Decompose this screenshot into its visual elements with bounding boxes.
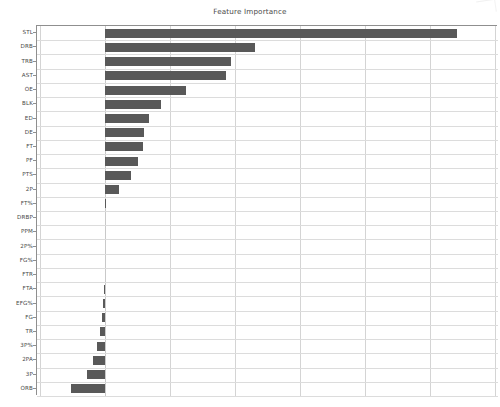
bar (93, 356, 105, 365)
y-gridline (37, 396, 498, 397)
bar (105, 142, 143, 151)
y-tick-label: PTS (0, 171, 33, 177)
bar (105, 100, 161, 109)
y-tick-label: FG% (0, 257, 33, 263)
y-gridline (37, 282, 498, 283)
y-tick-label: TRB (0, 58, 33, 64)
y-tick-label: 2P (0, 186, 33, 192)
y-gridline (37, 111, 498, 112)
y-gridline (37, 225, 498, 226)
y-gridline (37, 168, 498, 169)
y-gridline (37, 211, 498, 212)
y-gridline (37, 311, 498, 312)
bar (105, 57, 231, 66)
bar (105, 86, 186, 95)
y-gridline (37, 154, 498, 155)
y-tick-label: ED (0, 115, 33, 121)
y-gridline (37, 54, 498, 55)
y-tick-label: FT% (0, 200, 33, 206)
bar (100, 327, 105, 336)
y-tick-label: AST (0, 72, 33, 78)
y-gridline (37, 353, 498, 354)
y-gridline (37, 325, 498, 326)
y-tick-label: FTR (0, 271, 33, 277)
y-tick-label: 3P% (0, 342, 33, 348)
y-tick-label: PF (0, 157, 33, 163)
chart-title: Feature Importance (0, 7, 500, 16)
bar (105, 171, 131, 180)
y-gridline (37, 183, 498, 184)
y-gridline (37, 339, 498, 340)
bar (104, 285, 105, 294)
y-gridline (37, 197, 498, 198)
bar (102, 313, 105, 322)
y-gridline (37, 140, 498, 141)
bar (105, 199, 106, 208)
y-gridline (37, 69, 498, 70)
y-gridline (37, 268, 498, 269)
y-gridline (37, 126, 498, 127)
y-tick-label: FG (0, 314, 33, 320)
bar (87, 370, 105, 379)
y-tick-label: 3P (0, 371, 33, 377)
y-tick-label: TR (0, 328, 33, 334)
bar (97, 342, 105, 351)
y-gridline (37, 382, 498, 383)
y-tick-label: STL (0, 29, 33, 35)
y-tick-label: OE (0, 86, 33, 92)
y-tick-label: ORB (0, 385, 33, 391)
y-gridline (37, 254, 498, 255)
y-tick-label: DRBP (0, 214, 33, 220)
y-gridline (37, 97, 498, 98)
y-tick-label: DRB (0, 43, 33, 49)
plot-area (36, 25, 497, 395)
bar (105, 114, 149, 123)
bar (105, 71, 226, 80)
bar (71, 384, 105, 393)
y-tick-label: 2P% (0, 243, 33, 249)
y-gridline (37, 239, 498, 240)
y-gridline (37, 40, 498, 41)
bar (105, 128, 144, 137)
bar (103, 299, 106, 308)
chart-figure: Feature Importance STLDRBTRBASTOEBLKEDDE… (0, 0, 500, 407)
bar (105, 29, 457, 38)
y-tick-label: 2PA (0, 356, 33, 362)
y-gridline (37, 296, 498, 297)
bar (105, 157, 137, 166)
y-gridline (37, 368, 498, 369)
y-tick-label: FTA (0, 285, 33, 291)
y-tick-label: PPM (0, 228, 33, 234)
y-tick-label: DE (0, 129, 33, 135)
bar (105, 185, 119, 194)
y-gridline (37, 83, 498, 84)
y-tick-label: BLK (0, 100, 33, 106)
y-tick-label: FT (0, 143, 33, 149)
bar (105, 43, 254, 52)
y-tick-label: EFG% (0, 300, 33, 306)
